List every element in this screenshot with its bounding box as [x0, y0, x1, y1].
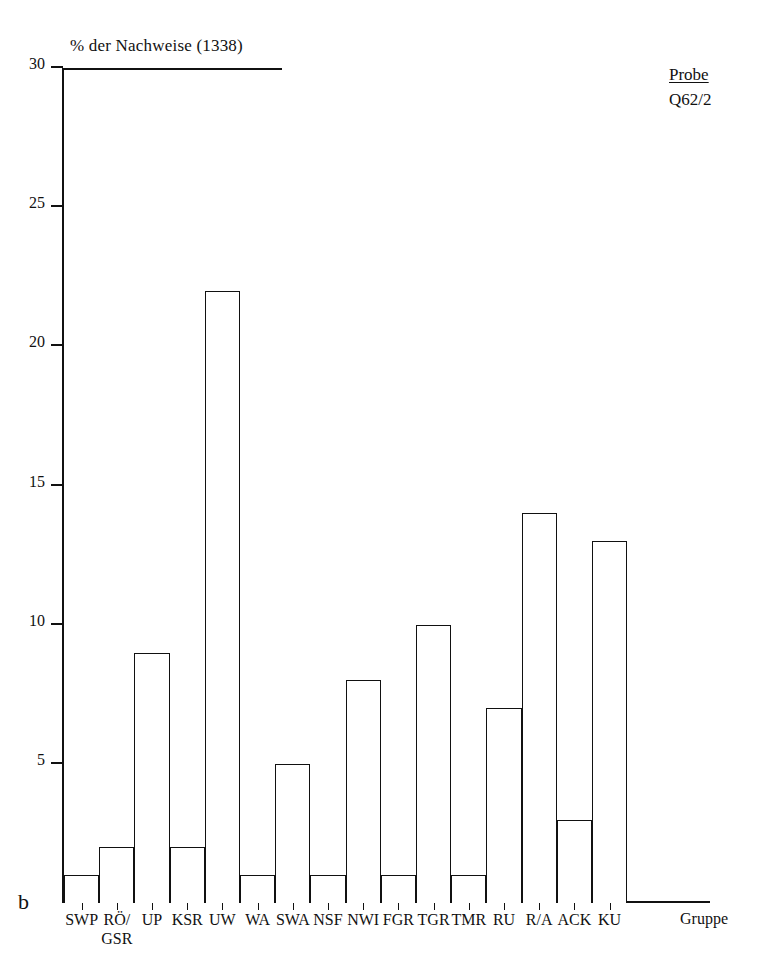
x-tick [328, 903, 329, 910]
x-tick [117, 903, 118, 910]
figure-letter: b [18, 889, 29, 915]
x-axis-title: Gruppe [680, 910, 728, 928]
bar [346, 680, 381, 903]
plot-area: 51015202530 SWPRÖ/ GSRUPKSRUWWASWANSFNWI… [62, 68, 710, 903]
y-tick: 20 [51, 344, 63, 346]
x-tick [82, 903, 83, 910]
x-tick [222, 903, 223, 910]
y-tick: 25 [51, 205, 63, 207]
bar [381, 875, 416, 903]
bar [592, 541, 627, 903]
figure-container: % der Nachweise (1338) Probe Q62/2 b 510… [0, 0, 766, 966]
bar [240, 875, 275, 903]
bar [170, 847, 205, 903]
x-tick [187, 903, 188, 910]
bar [134, 653, 169, 904]
bar [64, 875, 99, 903]
bar [275, 764, 310, 903]
x-tick [434, 903, 435, 910]
top-rule [62, 68, 282, 70]
y-tick-label: 15 [29, 473, 45, 491]
y-tick: 30 [51, 66, 63, 68]
x-tick [574, 903, 575, 910]
y-tick: 15 [51, 484, 63, 486]
y-axis-line [62, 68, 64, 903]
x-tick [398, 903, 399, 910]
y-tick-label: 25 [29, 194, 45, 212]
bar [205, 291, 240, 903]
x-tick [610, 903, 611, 910]
bar [486, 708, 521, 903]
y-tick-label: 5 [37, 751, 45, 769]
y-tick-label: 10 [29, 612, 45, 630]
x-tick [539, 903, 540, 910]
bar [416, 625, 451, 903]
x-tick [469, 903, 470, 910]
x-axis-label: KU [580, 910, 640, 929]
x-tick [293, 903, 294, 910]
x-tick [363, 903, 364, 910]
y-tick: 10 [51, 623, 63, 625]
y-tick-label: 20 [29, 333, 45, 351]
x-tick [504, 903, 505, 910]
y-tick: 5 [51, 762, 63, 764]
y-tick-label: 30 [29, 55, 45, 73]
bar [451, 875, 486, 903]
bar [310, 875, 345, 903]
x-tick [152, 903, 153, 910]
bar [522, 513, 557, 903]
chart-title: % der Nachweise (1338) [70, 36, 243, 56]
bar [557, 820, 592, 904]
bar [99, 847, 134, 903]
x-tick [258, 903, 259, 910]
